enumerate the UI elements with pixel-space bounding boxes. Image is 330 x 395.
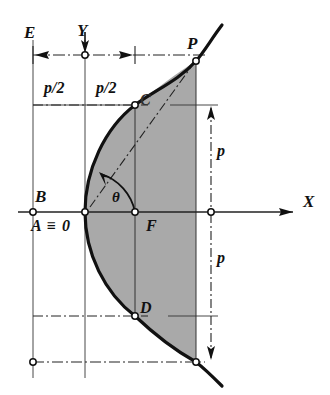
marker-bottom-left xyxy=(30,359,36,365)
marker-point-d xyxy=(132,313,138,319)
label-B: B xyxy=(35,188,46,205)
label-E: E xyxy=(24,24,35,41)
marker-origin-a xyxy=(82,209,88,215)
marker-y-axis-top xyxy=(82,52,88,58)
parabola-figure xyxy=(0,0,330,395)
label-F: F xyxy=(146,218,157,234)
dimension-label-p-upper: p xyxy=(217,143,225,159)
label-D: D xyxy=(140,300,152,316)
label-P: P xyxy=(187,35,197,52)
dimension-label-p-half-left: p/2 xyxy=(44,80,64,96)
label-Y: Y xyxy=(77,22,87,39)
label-theta: θ xyxy=(112,190,120,205)
label-X: X xyxy=(303,193,314,210)
marker-x-axis-dimension xyxy=(208,209,214,215)
marker-point-c xyxy=(132,102,138,108)
dimension-label-p-lower: p xyxy=(217,250,225,266)
marker-point-p xyxy=(193,58,199,64)
label-C: C xyxy=(140,92,151,108)
marker-focus-f xyxy=(132,209,138,215)
marker-bottom-curve xyxy=(193,359,199,365)
label-origin-A: A ≡ 0 xyxy=(31,218,71,234)
dimension-label-p-half-right: p/2 xyxy=(96,80,116,96)
marker-point-b xyxy=(30,209,36,215)
